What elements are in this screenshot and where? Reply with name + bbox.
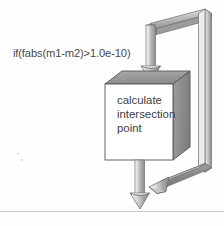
page-divider xyxy=(0,211,224,212)
flowchart-graphic xyxy=(0,0,224,226)
process-box-label-line-2: intersection xyxy=(117,107,179,121)
process-box-label-line-1: calculate xyxy=(117,93,179,107)
outgoing-down-arrow xyxy=(130,160,150,209)
scan-artifact: • xyxy=(20,156,22,163)
loopback-arrowhead-icon xyxy=(149,177,169,194)
condition-label: if(fabs(m1-m2)>1.0e-10) xyxy=(13,47,130,59)
process-box-label-line-3: point xyxy=(117,121,179,135)
loopback-right-band xyxy=(199,9,212,173)
process-box-label: calculate intersection point xyxy=(117,93,179,136)
diagram-canvas: if(fabs(m1-m2)>1.0e-10) calculate inters… xyxy=(0,0,224,226)
